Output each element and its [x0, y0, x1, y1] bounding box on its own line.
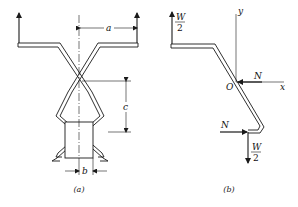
dimension-c-label: c	[123, 102, 128, 112]
dimension-a-label: a	[106, 23, 111, 33]
x-axis-label: x	[280, 82, 285, 92]
y-axis-label: y	[237, 6, 244, 16]
normal-force-bottom-label: N	[220, 120, 230, 130]
origin-label: O	[226, 82, 234, 92]
dimension-b-label: b	[82, 166, 88, 176]
top-load-numerator: W	[176, 12, 186, 22]
top-load-denominator: 2	[177, 23, 183, 33]
free-body-arm	[171, 44, 264, 133]
caption-a: (a)	[73, 185, 84, 194]
bottom-load-denominator: 2	[253, 153, 259, 163]
caption-b: (b)	[223, 185, 234, 194]
bottom-load-numerator: W	[252, 142, 262, 152]
figure-a	[18, 13, 138, 175]
diagram-canvas: a c b (a) W 2 y x O N N W 2 (b)	[0, 0, 298, 207]
normal-force-top-label: N	[253, 71, 263, 81]
